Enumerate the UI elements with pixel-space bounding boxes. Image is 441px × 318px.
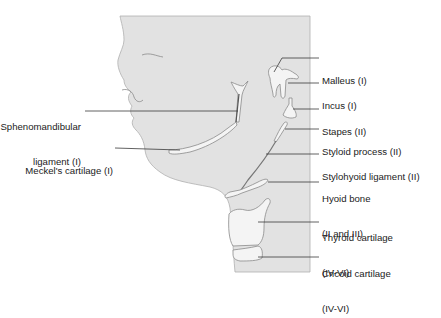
label-meckels-cartilage: Meckel's cartilage (I)	[25, 142, 113, 188]
label-line: Sphenomandibular	[0, 121, 81, 133]
label-line: Thyroid cartilage	[322, 232, 393, 244]
label-line: (IV-VI)	[322, 303, 391, 315]
label-line: Hyoid bone	[322, 193, 371, 205]
label-line: Meckel's cartilage (I)	[25, 165, 113, 177]
label-cricoid-cartilage: Cricoid cartilage (IV-VI)	[322, 245, 391, 318]
label-line: Cricoid cartilage	[322, 268, 391, 280]
